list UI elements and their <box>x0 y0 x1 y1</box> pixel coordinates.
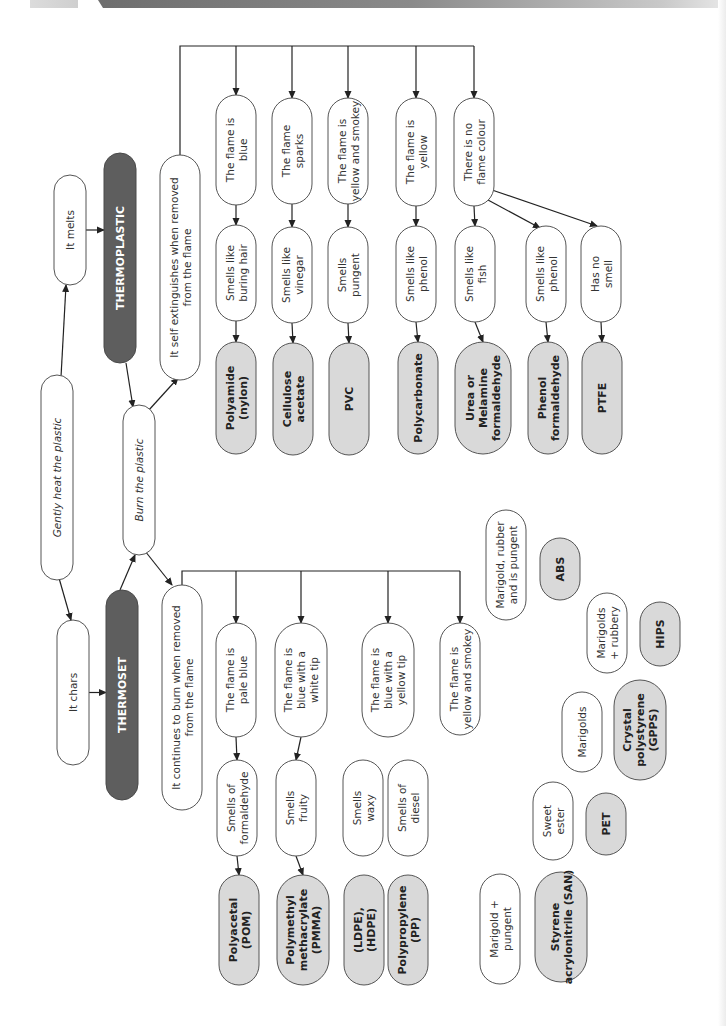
node-label: (LDPE),(HDPE) <box>352 907 378 953</box>
node-label-line: The flame is <box>336 119 348 184</box>
node-thermoset: THERMOSET <box>106 590 138 800</box>
node-label: Marigold, rubberand is pungent <box>494 521 519 609</box>
node-label: Gently heat the plastic <box>51 417 63 537</box>
node-label: The flame isblue with awhite tip <box>282 648 320 713</box>
node-label: Smells likeburing hair <box>224 244 249 302</box>
node-label-line: Polyamide <box>224 366 237 431</box>
edge-burn-to-self-extinguish <box>148 378 178 411</box>
node-self-ext: It self extinguishes when removedfrom th… <box>160 155 200 380</box>
node-label-line: blue <box>237 139 249 162</box>
node-ts-flame-pale: The flame ispale blue <box>216 623 256 737</box>
node-label-line: Smells <box>351 791 363 826</box>
node-label-line: The flame is <box>282 648 294 713</box>
node-label: HIPS <box>654 619 667 648</box>
node-label-line: Marigolds <box>576 707 588 758</box>
node-label-line: Smells like <box>280 247 292 303</box>
node-label-line: fish <box>476 265 488 284</box>
node-label-line: Polycarbonate <box>412 353 425 442</box>
node-ts-res-gpps: Crystalpolystyrene(GPPS) <box>614 680 666 780</box>
node-tp-res-ptfe: PTFE <box>582 342 622 454</box>
node-ts-res-san: Styreneacrylonitrile (SAN) <box>535 870 587 985</box>
node-label-line: Smells like <box>463 246 475 302</box>
node-label-line: white tip <box>308 657 320 703</box>
node-label-line: Smells of <box>396 784 408 832</box>
edge-connector <box>296 856 303 875</box>
node-ts-flame-white: The flame isblue with awhite tip <box>275 623 327 737</box>
node-label-line: phenol <box>547 256 559 292</box>
node-label: Has nosmell <box>589 256 614 292</box>
node-label-line: (nylon) <box>237 376 250 420</box>
node-label-line: Melamine <box>477 368 490 428</box>
node-ts-res-pmma: Polymethylmethacrylate(PMMA) <box>277 875 329 985</box>
node-thermoplastic: THERMOPLASTIC <box>104 153 136 363</box>
node-label-line: (POM) <box>240 911 253 949</box>
edge-connector <box>474 206 475 226</box>
node-label: Burn the plastic <box>133 438 145 521</box>
node-label-line: It chars <box>67 673 79 712</box>
node-label-line: pungent <box>501 907 513 951</box>
node-ts-smell-hips: Marigolds+ rubbery <box>587 593 627 673</box>
node-label: Marigolds <box>576 707 588 758</box>
edge-connector <box>546 322 548 342</box>
node-ts-res-pom: Polyacetal(POM) <box>219 875 259 985</box>
plastics-identification-flowchart: Gently heat the plasticIt meltsTHERMOPLA… <box>0 0 726 1026</box>
edge-thermoplastic-to-burn <box>126 363 133 407</box>
edge-connector <box>348 323 349 343</box>
node-label-line: fruity <box>297 794 309 822</box>
node-label-line: acrylonitrile (SAN) <box>562 870 575 985</box>
node-label: PVC <box>343 387 356 412</box>
node-label-line: blue with a <box>382 651 394 709</box>
node-label: Marigold +pungent <box>488 900 513 958</box>
node-label-line: formaldehyde <box>238 772 250 845</box>
node-tp-res-nylon: Polyamide(nylon) <box>216 342 256 454</box>
edge-connector <box>237 856 239 875</box>
node-label-line: sparks <box>293 134 305 168</box>
node-tp-smell-hair: Smells likeburing hair <box>216 225 256 321</box>
node-label: Sweetester <box>541 805 566 837</box>
node-label-line: Has no <box>589 256 601 292</box>
edge-heat-to-chars <box>59 578 71 620</box>
node-label-line: vinegar <box>293 254 305 294</box>
node-label: It chars <box>67 673 79 712</box>
node-label-line: Smells like <box>534 246 546 302</box>
node-label-line: waxy <box>364 794 376 821</box>
node-label-line: It self extinguishes when removed <box>168 177 180 357</box>
node-label-line: Burn the plastic <box>133 438 145 521</box>
edge-connector <box>296 737 301 760</box>
node-ts-res-pet: PET <box>586 793 626 855</box>
node-label: THERMOSET <box>116 657 129 733</box>
node-label-line: from the flame <box>181 228 193 306</box>
node-label: ABS <box>554 557 567 582</box>
node-label-line: The flame is <box>224 648 236 713</box>
node-tp-smell-none: Has nosmell <box>581 226 621 322</box>
edge-connector <box>601 322 602 342</box>
node-label-line: (PP) <box>409 917 422 943</box>
node-label: THERMOPLASTIC <box>114 206 127 310</box>
node-ts-res-hips: HIPS <box>640 602 680 666</box>
node-label: Marigolds+ rubbery <box>595 606 620 659</box>
node-tp-res-ca: Celluloseacetate <box>273 343 313 455</box>
node-gently-heat: Gently heat the plastic <box>41 375 73 580</box>
node-label-line: (LDPE), <box>352 907 365 953</box>
node-label: PET <box>600 812 613 836</box>
node-label-line: There is no <box>462 123 474 182</box>
node-label: It melts <box>64 210 76 250</box>
node-label-line: pale blue <box>237 656 249 705</box>
node-label-line: Crystal <box>621 708 634 752</box>
edge-connector <box>416 322 418 342</box>
node-label-line: THERMOPLASTIC <box>114 206 127 310</box>
node-label-line: acetate <box>294 376 307 423</box>
node-label-line: Polymethyl <box>284 895 297 965</box>
node-tp-smell-fish: Smells likefish <box>455 226 495 322</box>
edge-connector <box>475 322 483 342</box>
edge-none-to-nosmell <box>492 190 597 226</box>
node-label-line: Sweet <box>541 805 553 837</box>
node-label-line: Smells like <box>224 245 236 301</box>
node-label-line: polystyrene <box>634 693 647 767</box>
edge-connector <box>236 737 237 760</box>
node-label-line: Marigold, rubber <box>494 521 506 609</box>
node-label: Smellspungent <box>336 253 361 297</box>
node-label-line: Urea or <box>464 374 477 421</box>
edge-thermoset-to-burn <box>120 555 135 590</box>
node-tp-smell-vinegar: Smells likevinegar <box>272 227 312 323</box>
